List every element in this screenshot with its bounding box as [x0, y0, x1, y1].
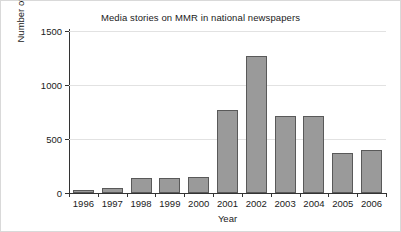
- x-tick-label: 2000: [184, 198, 213, 209]
- bar-slot: [155, 31, 184, 193]
- bar-slot: [271, 31, 300, 193]
- x-tick: 2005: [328, 193, 357, 213]
- x-tick-label: 1999: [155, 198, 184, 209]
- x-tick-mark: [386, 193, 387, 197]
- y-tick-label: 1500: [41, 26, 62, 37]
- x-tick: 2000: [184, 193, 213, 213]
- bar: [217, 110, 238, 193]
- bar: [275, 116, 296, 193]
- x-tick-label: 2004: [300, 198, 329, 209]
- bar-slot: [357, 31, 386, 193]
- chart-title: Media stories on MMR in national newspap…: [1, 12, 400, 23]
- bar: [246, 56, 267, 193]
- y-tick-label: 500: [46, 134, 62, 145]
- x-tick-label: 2002: [242, 198, 271, 209]
- x-axis-ticks: 1996199719981999200020012002200320042005…: [69, 193, 386, 213]
- bar: [361, 150, 382, 193]
- x-tick-label: 2003: [271, 198, 300, 209]
- bar: [332, 153, 353, 193]
- x-tick: 1998: [127, 193, 156, 213]
- x-tick: 2003: [271, 193, 300, 213]
- x-tick-label: 2005: [328, 198, 357, 209]
- x-tick-label: 1997: [98, 198, 127, 209]
- x-tick-label: 2001: [213, 198, 242, 209]
- bar-slot: [242, 31, 271, 193]
- x-tick-label: 1998: [127, 198, 156, 209]
- bar-slot: [300, 31, 329, 193]
- x-tick: 2004: [300, 193, 329, 213]
- y-axis-label: Number of stories: [15, 0, 29, 65]
- bar-slot: [184, 31, 213, 193]
- x-tick-mark: [69, 193, 70, 197]
- y-tick-label: 1000: [41, 80, 62, 91]
- x-tick: 2006: [357, 193, 386, 213]
- bar: [303, 116, 324, 193]
- bar-series: [69, 31, 386, 193]
- bar-slot: [98, 31, 127, 193]
- bar: [131, 178, 152, 193]
- bar: [188, 177, 209, 193]
- x-tick-label: 1996: [69, 198, 98, 209]
- bar-slot: [127, 31, 156, 193]
- bar: [159, 178, 180, 193]
- y-tick-label: 0: [57, 188, 62, 199]
- bar-slot: [213, 31, 242, 193]
- x-tick: 1999: [155, 193, 184, 213]
- bar-slot: [69, 31, 98, 193]
- x-tick: 1996: [69, 193, 98, 213]
- x-tick-label: 2006: [357, 198, 386, 209]
- x-tick: 2002: [242, 193, 271, 213]
- plot-area: 050010001500: [69, 31, 386, 193]
- chart-figure: Media stories on MMR in national newspap…: [0, 0, 401, 232]
- x-axis-label: Year: [69, 213, 386, 224]
- x-tick: 2001: [213, 193, 242, 213]
- bar-slot: [328, 31, 357, 193]
- x-tick: 1997: [98, 193, 127, 213]
